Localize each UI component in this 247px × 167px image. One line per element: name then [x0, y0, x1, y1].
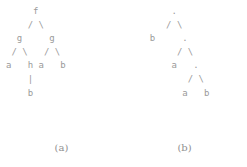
tree-b-ascii-art: . / \ b . / \ a . / \ a b [139, 5, 209, 100]
figure-tree-pair: f / \ g g / \ / \ a h a b | b (a) . / \ … [0, 0, 247, 167]
caption-a: (a) [0, 142, 123, 153]
tree-a-ascii-art: f / \ g g / \ / \ a h a b | b [6, 5, 66, 100]
tree-panel-b: . / \ b . / \ a . / \ a b [123, 0, 246, 140]
caption-b: (b) [123, 142, 246, 153]
tree-panel-a: f / \ g g / \ / \ a h a b | b [0, 0, 123, 140]
